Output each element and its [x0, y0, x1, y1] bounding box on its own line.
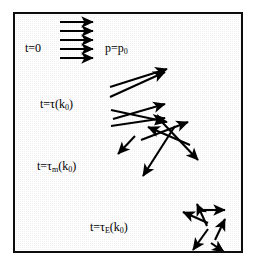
- label-scattering-prefix: t=τ(k: [40, 97, 65, 111]
- label-initial-time: t=0: [25, 42, 41, 54]
- momentum-arrow: [118, 136, 135, 154]
- vector-layer: [15, 14, 241, 251]
- label-initial-momentum: p=p0: [105, 42, 128, 56]
- label-initial-time-text: t=0: [25, 41, 41, 55]
- label-initial-momentum-sub: 0: [124, 47, 128, 56]
- label-scattering-suffix: ): [69, 97, 73, 111]
- label-initial-momentum-prefix: p=p: [105, 41, 124, 55]
- arrow-group-tau_e: [183, 204, 225, 251]
- arrow-group-t0: [60, 22, 93, 58]
- label-energy-mid: (k: [110, 220, 120, 234]
- label-momentum-suffix: ): [72, 159, 76, 173]
- arrow-group-tau_m: [118, 121, 198, 176]
- label-energy-prefix: t=τ: [90, 220, 105, 234]
- momentum-arrow: [211, 243, 224, 251]
- arrow-group-container: [60, 22, 225, 251]
- arrow-group-tau: [110, 69, 167, 126]
- momentum-arrow: [111, 118, 165, 126]
- diagram-panel: t=0 p=p0 t=τ(k0) t=τm(k0) t=τE(k0): [13, 12, 243, 253]
- label-momentum-prefix: t=τ: [37, 159, 52, 173]
- label-momentum-mid: (k: [58, 159, 68, 173]
- figure-root: t=0 p=p0 t=τ(k0) t=τm(k0) t=τE(k0): [0, 0, 258, 268]
- label-momentum-relaxation-time: t=τm(k0): [37, 160, 76, 174]
- momentum-arrow: [193, 229, 208, 250]
- momentum-arrow: [215, 219, 225, 240]
- label-energy-relaxation-time: t=τE(k0): [90, 221, 128, 235]
- label-energy-suffix: ): [124, 220, 128, 234]
- label-scattering-time: t=τ(k0): [40, 98, 73, 112]
